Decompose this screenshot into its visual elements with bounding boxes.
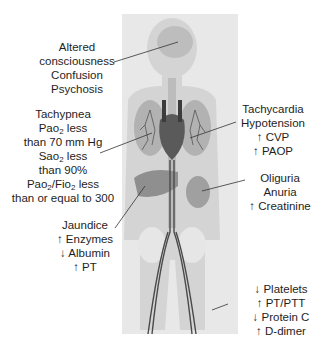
sao2-line: Sao2 less [8, 149, 118, 163]
brain-signs-label: Altered consciousness Confusion Psychosi… [37, 40, 117, 96]
blood-signs-label: ↓ Platelets ↑ PT/PTT ↓ Protein C ↑ D-dim… [244, 282, 318, 338]
heart-signs-label: Tachycardia Hypotension ↑ CVP ↑ PAOP [233, 102, 313, 158]
brain [157, 26, 193, 58]
kidney-signs-label: Oliguria Anuria ↑ Creatinine [242, 171, 318, 213]
pao2-line: Pao2 less [8, 121, 118, 135]
lung-signs-label: Tachypnea Pao2 less than 70 mm Hg Sao2 l… [8, 107, 118, 205]
liver-signs-label: Jaundice ↑ Enzymes ↓ Albumin ↑ PT [52, 218, 118, 274]
kidney [186, 176, 210, 208]
pf-ratio-line: Pao2/Fio2 less [8, 177, 118, 191]
